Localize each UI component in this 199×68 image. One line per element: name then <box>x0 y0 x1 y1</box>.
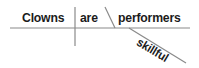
diagram-word-complement: performers <box>118 11 181 24</box>
diagram-word-subject: Clowns <box>22 11 64 24</box>
sentence-diagram: Clowns are performers skillful <box>0 0 199 68</box>
predicate-nominative-slant-line <box>105 7 115 28</box>
diagram-word-verb: are <box>80 11 98 24</box>
